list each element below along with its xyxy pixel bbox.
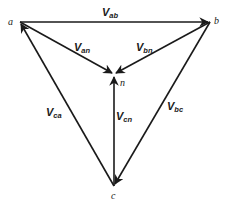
svg-text:Vbc: Vbc	[167, 100, 184, 114]
node-label-c: c	[111, 190, 116, 201]
svg-text:Van: Van	[74, 41, 91, 55]
node-label-n: n	[120, 77, 125, 88]
phasor-diagram: a b n c Vab Van Vbn Vca Vcn Vbc	[0, 0, 229, 204]
svg-text:Vcn: Vcn	[116, 110, 133, 124]
node-label-a: a	[8, 16, 13, 27]
edge-label-vca: Vca	[46, 106, 62, 120]
svg-text:Vab: Vab	[102, 6, 119, 20]
edge-label-van: Van	[74, 41, 91, 55]
edge-label-vbn: Vbn	[136, 41, 153, 55]
edge-label-vbc: Vbc	[167, 100, 184, 114]
edge-label-vcn: Vcn	[116, 110, 133, 124]
svg-text:Vca: Vca	[46, 106, 62, 120]
edge-vbc	[115, 22, 210, 184]
svg-text:Vbn: Vbn	[136, 41, 153, 55]
edge-label-vab: Vab	[102, 6, 119, 20]
node-label-b: b	[214, 15, 219, 26]
